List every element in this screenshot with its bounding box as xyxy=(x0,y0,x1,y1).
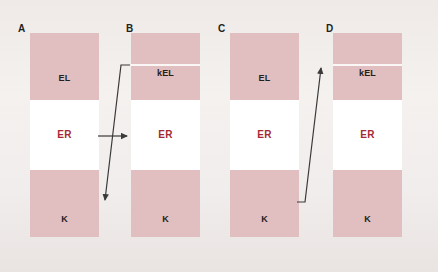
arrow-layer xyxy=(0,0,438,272)
figure-canvas: A EL ER K B kEL ER K C EL ER xyxy=(0,0,438,272)
arrow-c-k-to-d-kel xyxy=(297,68,321,202)
arrow-b-kel-to-a-k xyxy=(105,65,130,200)
